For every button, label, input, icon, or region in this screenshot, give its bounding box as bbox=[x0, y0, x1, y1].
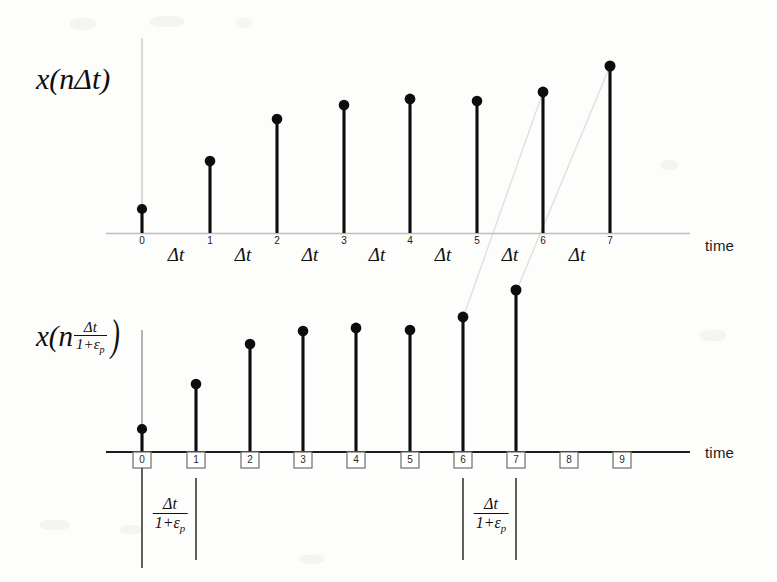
top-tick-label-4: 4 bbox=[407, 235, 413, 246]
index-box-label-9: 9 bbox=[619, 454, 625, 465]
fraction-denominator: 1+εp bbox=[74, 336, 107, 355]
bracket-denominator: 1+εp bbox=[153, 514, 188, 535]
interval-bracket-lines bbox=[142, 468, 516, 568]
stem-5 bbox=[405, 325, 416, 452]
stem-7 bbox=[511, 285, 522, 453]
bottom-plot-y-label: x(n Δt 1+εp ) bbox=[36, 318, 122, 355]
denominator-subscript: p bbox=[100, 344, 105, 355]
index-box-label-1: 1 bbox=[193, 454, 199, 465]
stem-3 bbox=[298, 326, 309, 452]
interval-bracket-label-1: Δt 1+εp bbox=[153, 495, 188, 535]
top-interval-label-1: Δt bbox=[235, 244, 251, 266]
bottom-plot-y-label-prefix: x(n bbox=[36, 322, 73, 351]
fraction-numerator: Δt bbox=[81, 319, 100, 335]
index-box-label-0: 0 bbox=[139, 454, 145, 465]
top-interval-label-6: Δt bbox=[569, 244, 585, 266]
plot-vector-layer bbox=[0, 0, 777, 582]
stem-5 bbox=[472, 96, 483, 233]
bottom-plot-y-label-suffix: ) bbox=[110, 319, 119, 353]
index-box-label-7: 7 bbox=[513, 454, 519, 465]
top-interval-label-3: Δt bbox=[369, 244, 385, 266]
stem-0 bbox=[137, 424, 147, 452]
top-tick-label-7: 7 bbox=[607, 235, 613, 246]
stem-2 bbox=[245, 339, 256, 452]
stem-3 bbox=[339, 100, 350, 233]
index-box-label-6: 6 bbox=[460, 454, 466, 465]
index-box-label-2: 2 bbox=[247, 454, 253, 465]
bracket-denominator-subscript: p bbox=[180, 522, 185, 534]
top-tick-label-2: 2 bbox=[274, 235, 280, 246]
bottom-plot-time-label: time bbox=[705, 444, 734, 461]
bracket-denominator-subscript: p bbox=[501, 522, 506, 534]
top-tick-label-6: 6 bbox=[540, 235, 546, 246]
top-interval-label-0: Δt bbox=[168, 244, 184, 266]
stem-7 bbox=[605, 61, 616, 234]
top-tick-label-1: 1 bbox=[207, 235, 213, 246]
top-interval-label-5: Δt bbox=[502, 244, 518, 266]
top-plot-time-label: time bbox=[705, 237, 734, 254]
top-interval-label-2: Δt bbox=[302, 244, 318, 266]
top-plot-axes bbox=[106, 38, 690, 234]
stem-1 bbox=[191, 379, 202, 452]
interval-bracket-label-2: Δt 1+εp bbox=[474, 495, 509, 535]
bracket-denominator-lead: 1+ bbox=[155, 514, 174, 531]
index-box-label-4: 4 bbox=[353, 454, 359, 465]
bracket-numerator: Δt bbox=[159, 495, 181, 513]
index-box-label-5: 5 bbox=[407, 454, 413, 465]
bottom-plot-y-label-fraction: Δt 1+εp bbox=[74, 319, 107, 356]
guide-lines bbox=[463, 66, 610, 318]
guide-line-6 bbox=[463, 92, 543, 318]
stem-4 bbox=[405, 94, 416, 233]
bracket-numerator: Δt bbox=[480, 495, 502, 513]
top-interval-label-4: Δt bbox=[435, 244, 451, 266]
stem-2 bbox=[272, 114, 283, 233]
stem-4 bbox=[351, 323, 362, 452]
bottom-plot-stems bbox=[137, 285, 522, 453]
guide-line-7 bbox=[516, 66, 610, 292]
stem-1 bbox=[205, 156, 216, 233]
bottom-plot-index-boxes bbox=[133, 452, 631, 468]
stem-0 bbox=[137, 204, 147, 233]
stem-6 bbox=[538, 87, 549, 233]
stem-6 bbox=[458, 312, 469, 452]
index-box-label-3: 3 bbox=[300, 454, 306, 465]
bracket-denominator-lead: 1+ bbox=[476, 514, 495, 531]
top-tick-label-3: 3 bbox=[341, 235, 347, 246]
denominator-main: 1+ε bbox=[76, 336, 100, 352]
top-tick-label-5: 5 bbox=[474, 235, 480, 246]
bottom-plot-axes bbox=[106, 330, 690, 452]
top-plot-stems bbox=[137, 61, 616, 234]
bracket-denominator: 1+εp bbox=[474, 514, 509, 535]
top-plot-y-label: x(nΔt) bbox=[36, 64, 110, 94]
index-box-label-8: 8 bbox=[566, 454, 572, 465]
top-tick-label-0: 0 bbox=[139, 235, 145, 246]
figure-canvas: x(nΔt) time 0 1 2 3 4 5 6 7 Δt Δt Δt Δt … bbox=[0, 0, 777, 582]
